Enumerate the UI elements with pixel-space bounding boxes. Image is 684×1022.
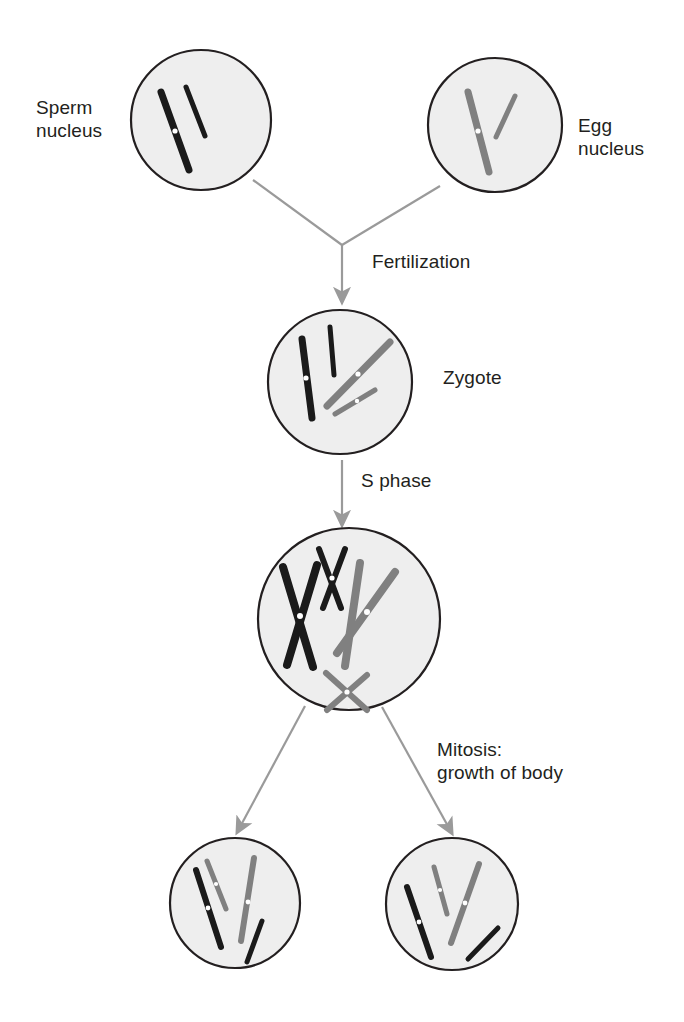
label-sperm-nucleus-line2: nucleus [36, 120, 102, 141]
centromere-maternal-short [214, 882, 218, 886]
label-sperm-nucleus: Spermnucleus [36, 96, 102, 142]
cell-membrane-daughter-left [170, 838, 300, 968]
centromere [364, 609, 370, 615]
centromere-maternal-long [355, 371, 360, 376]
label-mitosis-line1: Mitosis: [437, 739, 502, 760]
label-egg-nucleus: Eggnucleus [578, 114, 644, 160]
connector-group [240, 180, 449, 828]
centromere-paternal-long [417, 920, 422, 925]
centromere-maternal-long [463, 901, 468, 906]
arrow-mitosis-left [240, 706, 305, 827]
centromere-paternal-long [303, 375, 308, 380]
cell-membrane-egg [428, 58, 562, 192]
cell-daughter-left [170, 838, 300, 968]
cell-s-phase [258, 528, 440, 710]
centromere-maternal-long [246, 900, 251, 905]
centromere-paternal-long [172, 128, 177, 133]
label-mitosis: Mitosis:growth of body [437, 738, 563, 784]
chromosome-inheritance-diagram: Spermnucleus Eggnucleus Fertilization Zy… [0, 0, 684, 1022]
label-zygote: Zygote [443, 366, 502, 389]
label-s-phase: S phase [361, 469, 431, 492]
centromere [297, 613, 303, 619]
cell-sperm-nucleus [131, 50, 271, 190]
centromere [329, 575, 334, 580]
label-mitosis-line2: growth of body [437, 762, 563, 783]
centromere-maternal-long [475, 128, 480, 133]
centromere-paternal-long [206, 906, 211, 911]
cell-zygote [268, 310, 412, 454]
label-sperm-nucleus-line1: Sperm [36, 97, 92, 118]
centromere-maternal-short [355, 399, 359, 403]
centromere-maternal-short [438, 888, 442, 892]
centromere [344, 689, 349, 694]
connector-egg-to-fertilization [342, 186, 440, 245]
connector-sperm-to-fertilization [253, 180, 342, 245]
label-fertilization: Fertilization [372, 250, 470, 273]
label-egg-nucleus-line2: nucleus [578, 138, 644, 159]
cell-membrane-daughter-right [386, 838, 518, 970]
cell-daughter-right [386, 838, 518, 970]
cell-membrane-zygote [268, 310, 412, 454]
cell-egg-nucleus [428, 58, 562, 192]
label-egg-nucleus-line1: Egg [578, 115, 612, 136]
